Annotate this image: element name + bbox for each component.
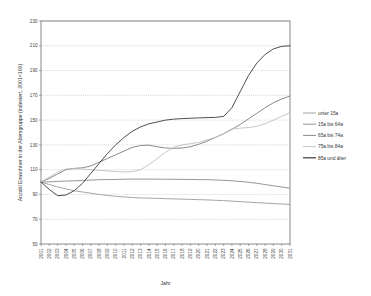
x-tick-label: 2029 <box>271 248 276 259</box>
legend-label-3: 75a bis 84a <box>318 144 343 149</box>
y-tick-label: 50 <box>32 242 38 247</box>
y-tick-label: 110 <box>30 167 38 172</box>
y-axis-title: Anzahl Einwohner in der Altersgruppe (in… <box>17 64 23 202</box>
x-tick-label: 2012 <box>130 248 135 259</box>
y-tick-label: 90 <box>32 192 38 197</box>
x-tick-label: 2031 <box>288 248 293 259</box>
x-tick-label: 2028 <box>263 248 268 259</box>
x-tick-label: 2006 <box>80 248 85 259</box>
x-tick-label: 2015 <box>155 248 160 259</box>
x-tick-label: 2017 <box>171 248 176 259</box>
x-tick-label: 2022 <box>213 248 218 259</box>
y-tick-label: 230 <box>30 19 38 24</box>
legend-label-0: unter 15a <box>318 111 339 116</box>
x-tick-label: 2003 <box>55 248 60 259</box>
x-axis-title: Jahr <box>160 280 170 286</box>
series-line-0 <box>41 182 290 204</box>
y-tick-label: 190 <box>30 68 38 73</box>
x-tick-label: 2030 <box>279 248 284 259</box>
plot-frame <box>41 21 290 244</box>
x-tick-labels: 2001200220032004200520062007200820092010… <box>39 248 293 259</box>
series-line-4 <box>41 46 290 196</box>
line-chart: 507090110130150170190210230 200120022003… <box>0 0 371 296</box>
x-tick-label: 2005 <box>72 248 77 259</box>
x-tick-label: 2018 <box>180 248 185 259</box>
x-tick-label: 2014 <box>147 248 152 259</box>
x-tick-label: 2010 <box>113 248 118 259</box>
x-tick-label: 2023 <box>221 248 226 259</box>
y-tick-label: 170 <box>30 93 38 98</box>
x-tick-label: 2007 <box>88 248 93 259</box>
x-tick-label: 2024 <box>230 248 235 259</box>
legend-label-1: 15a bis 64a <box>318 122 343 127</box>
legend-label-4: 85a und älter <box>318 156 346 161</box>
chart-legend: unter 15a15a bis 64a65a bis 74a75a bis 8… <box>303 111 346 161</box>
y-tick-label: 70 <box>32 217 38 222</box>
x-tick-label: 2009 <box>105 248 110 259</box>
x-tick-label: 2019 <box>188 248 193 259</box>
legend-label-2: 65a bis 74a <box>318 133 343 138</box>
series-line-3 <box>41 113 290 182</box>
x-tick-label: 2020 <box>196 248 201 259</box>
x-tick-label: 2001 <box>39 248 44 259</box>
x-tick-label: 2026 <box>246 248 251 259</box>
y-tick-labels: 507090110130150170190210230 <box>30 19 38 247</box>
x-tick-label: 2027 <box>254 248 259 259</box>
x-tick-label: 2016 <box>163 248 168 259</box>
series-lines <box>41 46 290 205</box>
y-tick-label: 210 <box>30 43 38 48</box>
x-tick-label: 2021 <box>205 248 210 259</box>
x-tick-label: 2025 <box>238 248 243 259</box>
x-tick-label: 2011 <box>122 248 127 258</box>
y-tick-label: 130 <box>30 143 38 148</box>
x-tick-label: 2008 <box>97 248 102 259</box>
x-tick-label: 2004 <box>64 248 69 259</box>
chart-container: 507090110130150170190210230 200120022003… <box>0 0 371 296</box>
y-tick-label: 150 <box>30 118 38 123</box>
x-tick-label: 2013 <box>138 248 143 259</box>
x-tick-label: 2002 <box>47 248 52 259</box>
